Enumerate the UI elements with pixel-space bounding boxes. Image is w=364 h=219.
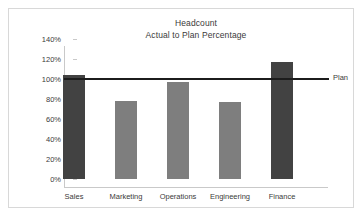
y-tick-label: 40% (25, 135, 61, 144)
y-tick-label: 140% (25, 35, 61, 44)
y-tick-label: 0% (25, 175, 61, 184)
bar-marketing (115, 101, 137, 179)
y-tick-label: 80% (25, 95, 61, 104)
x-label-operations: Operations (160, 192, 197, 201)
y-tick-mark (73, 59, 77, 60)
bar-sales (63, 75, 85, 179)
y-axis-ticks: 0%20%40%60%80%100%120%140% (21, 9, 61, 219)
bar-operations (167, 82, 189, 179)
x-label-finance: Finance (269, 192, 296, 201)
y-tick-mark (73, 179, 77, 180)
y-tick-label: 120% (25, 55, 61, 64)
chart-title-main: Headcount (175, 18, 217, 28)
x-label-engineering: Engineering (210, 192, 250, 201)
plan-reference-label: Plan (333, 73, 348, 82)
y-tick-label: 100% (25, 75, 61, 84)
plan-reference-line (64, 78, 329, 80)
chart-title-sub: Actual to Plan Percentage (65, 29, 327, 41)
x-label-marketing: Marketing (110, 192, 143, 201)
y-tick-label: 20% (25, 155, 61, 164)
y-tick-label: 60% (25, 115, 61, 124)
x-axis-line (64, 187, 328, 188)
y-tick-mark (73, 39, 77, 40)
chart-title: Headcount Actual to Plan Percentage (65, 17, 327, 41)
chart-frame: Headcount Actual to Plan Percentage 0%20… (8, 8, 354, 208)
bar-engineering (219, 102, 241, 179)
x-label-sales: Sales (65, 192, 84, 201)
